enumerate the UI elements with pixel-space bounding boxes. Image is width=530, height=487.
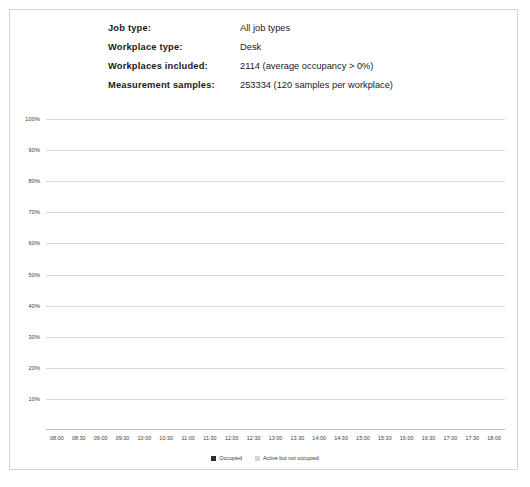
screenshot-page: Job type: All job types Workplace type: … [0,0,530,487]
bar-group[interactable]: 14:00 [308,119,330,430]
x-axis-tick-label: 10:00 [137,435,151,441]
chart-legend: Occupied Active but not occupied [0,455,530,461]
legend-swatch-active-not-occupied-icon [255,456,260,461]
x-axis-line [46,429,505,430]
plot-area: 100%90%80%70%60%50%40%30%20%10% 08:0008:… [46,119,505,430]
x-axis-tick-label: 09:00 [94,435,108,441]
bar-group[interactable]: 15:00 [352,119,374,430]
x-axis-tick-label: 17:30 [465,435,479,441]
x-axis-tick-label: 18:00 [487,435,501,441]
x-axis-tick-label: 12:30 [247,435,261,441]
x-axis-tick-label: 08:00 [50,435,64,441]
y-axis-tick-label: 80% [29,178,41,184]
legend-label-active-not-occupied: Active but not occupied [263,455,319,461]
x-axis-tick-label: 14:30 [334,435,348,441]
y-axis-tick-label: 30% [29,334,41,340]
bar-group[interactable]: 17:30 [461,119,483,430]
bar-group[interactable]: 08:00 [46,119,68,430]
x-axis-tick-label: 16:30 [422,435,436,441]
x-axis-tick-label: 09:30 [116,435,130,441]
bar-group[interactable]: 17:00 [439,119,461,430]
bar-group[interactable]: 16:30 [418,119,440,430]
bar-group[interactable]: 14:30 [330,119,352,430]
bar-group[interactable]: 10:30 [155,119,177,430]
bar-group[interactable]: 18:00 [483,119,505,430]
bar-group[interactable]: 09:30 [112,119,134,430]
x-axis-tick-label: 13:00 [269,435,283,441]
bar-group[interactable]: 11:00 [177,119,199,430]
x-axis-tick-label: 08:30 [72,435,86,441]
y-axis-tick-label: 100% [25,116,40,122]
y-axis-tick-label: 70% [29,209,41,215]
bar-group[interactable]: 13:30 [286,119,308,430]
y-axis-tick-label: 60% [29,240,41,246]
y-axis-tick-label: 20% [29,365,41,371]
x-axis-tick-label: 15:30 [378,435,392,441]
y-axis-tick-label: 90% [29,147,41,153]
bar-group[interactable]: 10:00 [133,119,155,430]
bar-series-container: 08:0008:3009:0009:3010:0010:3011:0011:30… [46,119,505,430]
x-axis-tick-label: 11:00 [181,435,194,441]
x-axis-tick-label: 13:30 [291,435,305,441]
legend-item-occupied: Occupied [211,455,242,461]
bar-group[interactable]: 08:30 [68,119,90,430]
bar-group[interactable]: 12:30 [243,119,265,430]
bar-group[interactable]: 09:00 [90,119,112,430]
x-axis-tick-label: 16:00 [400,435,414,441]
x-axis-tick-label: 17:00 [444,435,458,441]
y-axis-tick-label: 50% [29,272,41,278]
y-axis-tick-label: 10% [29,396,41,402]
y-axis-tick-label: 40% [29,303,41,309]
bar-group[interactable]: 12:00 [221,119,243,430]
x-axis-tick-label: 15:00 [356,435,370,441]
legend-label-occupied: Occupied [219,455,242,461]
legend-item-active-not-occupied: Active but not occupied [255,455,319,461]
bar-group[interactable]: 15:30 [374,119,396,430]
x-axis-tick-label: 12:00 [225,435,239,441]
x-axis-tick-label: 14:00 [312,435,326,441]
x-axis-tick-label: 11:30 [203,435,216,441]
bar-group[interactable]: 16:00 [396,119,418,430]
occupancy-bar-chart: 100%90%80%70%60%50%40%30%20%10% 08:0008:… [0,0,530,487]
legend-swatch-occupied-icon [211,456,216,461]
bar-group[interactable]: 13:00 [265,119,287,430]
x-axis-tick-label: 10:30 [159,435,173,441]
bar-group[interactable]: 11:30 [199,119,221,430]
